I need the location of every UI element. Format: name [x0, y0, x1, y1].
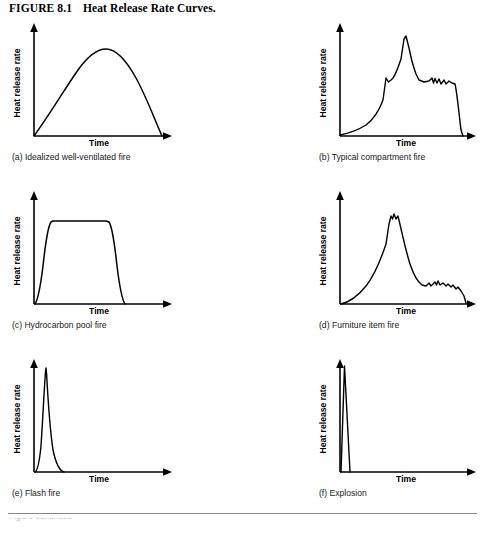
y-axis-arrow — [30, 23, 38, 32]
plot-area-c: Heat release rate Time — [6, 186, 206, 314]
figure-number: FIGURE 8.1 — [9, 2, 72, 14]
chart-svg-e: Heat release rate Time — [6, 354, 206, 482]
data-curve-c — [35, 221, 125, 304]
y-axis-label: Heat release rate — [318, 48, 328, 117]
y-axis-arrow — [30, 191, 38, 200]
data-curve-a — [34, 49, 162, 136]
data-curve-b — [340, 36, 463, 136]
y-axis-arrow — [30, 359, 38, 368]
chart-panel-f: Heat release rate Time (f) Explosion — [306, 354, 485, 522]
panel-caption-b: (b) Typical compartment fire — [319, 152, 425, 162]
y-axis-label: Heat release rate — [12, 48, 22, 117]
chart-svg-f: Heat release rate Time — [306, 354, 485, 482]
x-axis-label: Time — [89, 138, 109, 146]
y-axis-label: Heat release rate — [12, 216, 22, 285]
x-axis-label: Time — [396, 474, 416, 482]
chart-panel-c: Heat release rate Time (c) Hydrocarbon p… — [6, 186, 206, 354]
x-axis-arrow — [163, 300, 172, 308]
x-axis-arrow — [163, 132, 172, 140]
chart-panel-d: Heat release rate Time (d) Furniture ite… — [306, 186, 485, 354]
figure-title: FIGURE 8.1Heat Release Rate Curves. — [9, 2, 216, 14]
data-curve-e — [35, 368, 64, 472]
y-axis-label: Heat release rate — [318, 384, 328, 453]
panel-caption-d: (d) Furniture item fire — [319, 320, 399, 330]
footer-cut-text: Figure continued — [9, 518, 309, 535]
x-axis-label: Time — [89, 306, 109, 314]
figure-panel-grid: Heat release rate Time (a) Idealized wel… — [0, 18, 485, 518]
x-axis-label: Time — [89, 474, 109, 482]
plot-area-a: Heat release rate Time — [6, 18, 206, 146]
x-axis-arrow — [467, 468, 476, 476]
x-axis-label: Time — [396, 306, 416, 314]
data-curve-d — [341, 214, 466, 304]
y-axis-arrow — [336, 359, 344, 368]
y-axis-arrow — [336, 23, 344, 32]
plot-area-b: Heat release rate Time — [306, 18, 485, 146]
plot-area-d: Heat release rate Time — [306, 186, 485, 314]
x-axis-label: Time — [396, 138, 416, 146]
y-axis-arrow — [336, 191, 344, 200]
plot-area-e: Heat release rate Time — [6, 354, 206, 482]
x-axis-arrow — [163, 468, 172, 476]
footer-cut-label: Figure continued — [9, 518, 72, 521]
data-curve-f — [341, 366, 350, 472]
chart-panel-e: Heat release rate Time (e) Flash fire — [6, 354, 206, 522]
chart-svg-c: Heat release rate Time — [6, 186, 206, 314]
x-axis-arrow — [467, 132, 476, 140]
plot-area-f: Heat release rate Time — [306, 354, 485, 482]
figure-title-text: Heat Release Rate Curves. — [83, 2, 216, 14]
chart-panel-a: Heat release rate Time (a) Idealized wel… — [6, 18, 206, 186]
panel-caption-e: (e) Flash fire — [12, 488, 60, 498]
chart-svg-a: Heat release rate Time — [6, 18, 206, 146]
x-axis-arrow — [467, 300, 476, 308]
chart-panel-b: Heat release rate Time (b) Typical compa… — [306, 18, 485, 186]
chart-svg-d: Heat release rate Time — [306, 186, 485, 314]
y-axis-label: Heat release rate — [12, 384, 22, 453]
panel-caption-a: (a) Idealized well-ventilated fire — [12, 152, 130, 162]
bottom-divider — [8, 513, 477, 514]
panel-caption-c: (c) Hydrocarbon pool fire — [12, 320, 107, 330]
y-axis-label: Heat release rate — [318, 216, 328, 285]
panel-caption-f: (f) Explosion — [319, 488, 367, 498]
chart-svg-b: Heat release rate Time — [306, 18, 485, 146]
